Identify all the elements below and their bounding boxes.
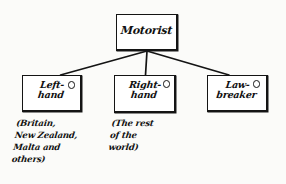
node-law-breaker: Law- breaker <box>207 75 268 112</box>
edge-motorist-to-law-breaker <box>147 51 229 75</box>
node-right-hand: Right- hand <box>114 75 176 113</box>
circle-marker-icon <box>163 80 171 88</box>
node-motorist: Motorist <box>116 14 178 51</box>
circle-marker-icon <box>68 81 76 89</box>
handdrawn-tree-diagram: Motorist Left- hand Right- hand Law- bre… <box>0 0 286 184</box>
circle-marker-icon <box>253 80 261 88</box>
node-motorist-label: Motorist <box>116 25 176 36</box>
edge-motorist-to-left-hand <box>61 51 148 75</box>
edge-motorist-to-right-hand <box>146 51 148 75</box>
node-left-hand: Left- hand <box>22 75 82 112</box>
caption-right-hand: (The rest of the world) <box>108 118 192 154</box>
caption-left-hand: (Britain, New Zealand, Malta and others) <box>11 118 113 165</box>
